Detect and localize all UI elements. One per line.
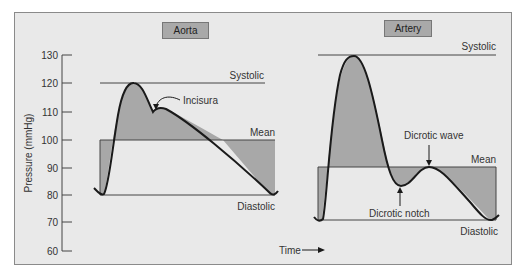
svg-text:130: 130: [41, 50, 58, 61]
pressure-diagram: 130 120 110 100 90 80 70 60 Pressure (mm…: [0, 0, 529, 280]
artery-chart: Dicrotic wave Dicrotic notch Systolic Me…: [314, 41, 499, 237]
time-axis: Time: [279, 245, 325, 256]
y-axis-label: Pressure (mmHg): [23, 114, 34, 193]
aorta-diastolic-label: Diastolic: [237, 201, 275, 212]
svg-text:90: 90: [47, 163, 59, 174]
y-ticks: 130 120 110 100 90 80 70 60: [41, 50, 58, 257]
dicrotic-notch-label: Dicrotic notch: [369, 208, 430, 219]
aorta-systolic-label: Systolic: [230, 70, 264, 81]
svg-text:70: 70: [47, 217, 59, 228]
incisura-label: Incisura: [183, 95, 218, 106]
artery-diastolic-label: Diastolic: [460, 226, 498, 237]
aorta-chart: Incisura Systolic Mean Diastolic: [94, 70, 278, 212]
svg-text:100: 100: [41, 135, 58, 146]
svg-text:60: 60: [47, 246, 59, 257]
arrow-right-icon: [318, 247, 325, 253]
svg-text:120: 120: [41, 78, 58, 89]
artery-systolic-label: Systolic: [462, 41, 496, 52]
svg-text:110: 110: [42, 107, 58, 118]
dicrotic-wave-label: Dicrotic wave: [404, 130, 464, 141]
svg-text:80: 80: [47, 190, 59, 201]
y-axis: [62, 55, 72, 251]
aorta-mean-label: Mean: [250, 127, 275, 138]
artery-mean-label: Mean: [471, 154, 496, 165]
time-label: Time: [279, 245, 301, 256]
